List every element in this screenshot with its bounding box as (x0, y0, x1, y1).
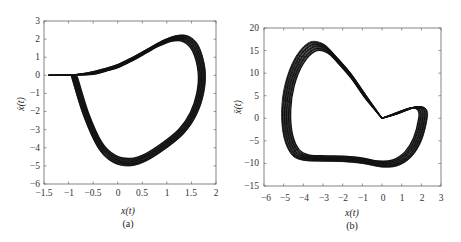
y-axis-label-b: ẍ(t) (232, 99, 244, 115)
figure: −1.5 −1 −0.5 0 0.5 1 1.5 2 3 2 1 0 −1 −2… (0, 0, 461, 242)
y-tick-label: −6 (30, 179, 40, 189)
trajectory-path (49, 37, 203, 163)
y-tick-labels-b: 20 15 10 5 0 −5 −10 −15 (244, 23, 259, 191)
trajectory-path (49, 37, 203, 164)
trajectory-path (290, 50, 420, 162)
x-tick-label: −4 (299, 193, 309, 203)
x-tick-labels-a: −1.5 −1 −0.5 0 0.5 1 1.5 2 (35, 188, 218, 198)
y-tick-label: −1 (30, 88, 40, 98)
y-tick-label: 0 (35, 70, 40, 80)
trajectory-path (49, 38, 201, 161)
trajectory-path (288, 48, 422, 163)
trajectory-path (49, 35, 205, 165)
x-tick-label: 1 (400, 193, 405, 203)
y-axis-label-a: ẋ(t) (15, 96, 27, 112)
caption-a: (a) (122, 218, 133, 230)
trajectory-path (286, 46, 423, 164)
trajectory-path (289, 48, 422, 162)
trajectory-a (49, 35, 206, 166)
y-tick-label: 0 (254, 113, 259, 123)
y-tick-label: −5 (249, 136, 259, 146)
x-axis-label-a: x(t) (120, 205, 136, 217)
x-tick-label: 2 (420, 193, 425, 203)
x-axis-label-b: x(t) (344, 207, 360, 219)
panel-b: −6 −5 −4 −3 −2 −1 0 1 2 3 20 15 10 5 0 −… (232, 23, 444, 232)
trajectory-path (289, 49, 420, 162)
x-tick-label: 0.5 (136, 188, 148, 198)
y-tick-label: −10 (244, 158, 259, 168)
trajectory-path (285, 45, 424, 165)
x-tick-labels-b: −6 −5 −4 −3 −2 −1 0 1 2 3 (261, 193, 444, 203)
x-tick-label: 3 (439, 193, 444, 203)
trajectory-path (49, 36, 204, 164)
y-tick-label: 3 (35, 16, 40, 26)
y-tick-label: −4 (30, 143, 40, 153)
x-tick-label: 0 (116, 188, 121, 198)
y-tick-label: 10 (250, 68, 260, 78)
trajectory-path (49, 40, 200, 160)
x-tick-label: −6 (261, 193, 271, 203)
y-tick-label: −2 (30, 106, 40, 116)
trajectory-path (49, 40, 199, 159)
x-tick-label: −5 (280, 193, 290, 203)
trajectory-path (286, 46, 424, 165)
y-tick-label: 2 (35, 34, 40, 44)
y-tick-label: 5 (254, 91, 259, 101)
y-tick-labels-a: 3 2 1 0 −1 −2 −3 −4 −5 −6 (30, 16, 40, 189)
trajectory-path (291, 50, 419, 161)
trajectory-path (49, 38, 202, 163)
trajectory-path (49, 39, 201, 161)
x-tick-label: −0.5 (84, 188, 101, 198)
x-tick-label: −3 (319, 193, 329, 203)
x-tick-label: 1 (165, 188, 170, 198)
y-tick-label: −15 (244, 181, 259, 191)
x-tick-label: −1.5 (35, 188, 52, 198)
caption-b: (b) (346, 220, 358, 232)
trajectory-path (284, 44, 425, 165)
x-tick-label: −2 (338, 193, 348, 203)
trajectory-path (49, 39, 200, 160)
x-tick-label: −1 (64, 188, 74, 198)
panel-a: −1.5 −1 −0.5 0 0.5 1 1.5 2 3 2 1 0 −1 −2… (15, 16, 219, 230)
trajectory-path (49, 36, 205, 165)
y-tick-label: 1 (35, 52, 40, 62)
x-tick-label: 2 (214, 188, 219, 198)
y-tick-label: 20 (250, 23, 260, 33)
trajectory-b (282, 41, 428, 167)
x-tick-label: −1 (358, 193, 368, 203)
y-tick-label: 15 (250, 46, 260, 56)
trajectory-path (49, 35, 206, 166)
x-tick-label: 1.5 (185, 188, 197, 198)
y-tick-label: −5 (30, 161, 40, 171)
trajectory-path (287, 47, 422, 164)
y-tick-label: −3 (30, 125, 40, 135)
x-tick-label: 0 (381, 193, 386, 203)
trajectory-path (49, 38, 202, 162)
